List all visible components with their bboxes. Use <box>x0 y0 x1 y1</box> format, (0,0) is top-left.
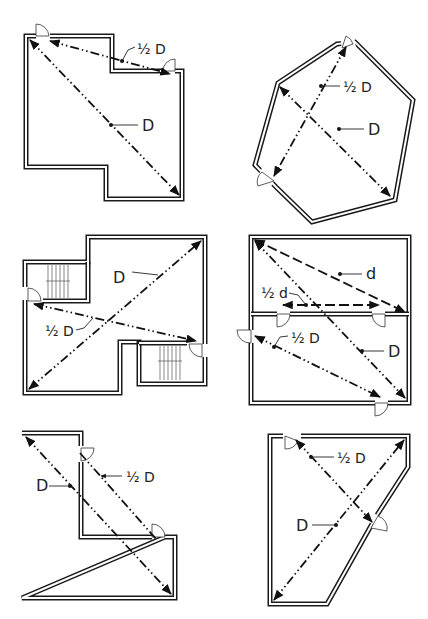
panel-6-label-d: D <box>296 516 308 535</box>
panel-5-label-d: D <box>36 476 48 495</box>
panel-3-stairs-bottom-right <box>158 346 182 380</box>
panel-2-door-top <box>340 36 356 50</box>
panel-1-label-d: D <box>142 116 154 135</box>
panel-3-floor-plan: D ½ D <box>21 237 209 393</box>
panel-2-label-half-d: ½ D <box>343 79 372 95</box>
panel-4-door-left-wall <box>237 330 255 343</box>
panel-2-label-d: D <box>368 120 380 139</box>
panel-4-door-bottom <box>375 399 388 416</box>
panel-4-floor-plan: d ½ d D ½ D <box>237 237 409 416</box>
panel-5-label-half-d: ½ D <box>126 469 155 485</box>
panel-4-label-half-d-lower: ½ d <box>261 285 288 301</box>
panel-1-door-right <box>163 59 175 75</box>
panel-4-diagonal-d-upper <box>255 240 405 312</box>
panel-4-label-d-lower: d <box>366 264 376 283</box>
panel-5-door-lower <box>152 524 165 537</box>
panel-2-diagonal-d <box>280 87 390 196</box>
panel-5-exit-line <box>80 453 157 540</box>
panel-6-door-top <box>285 436 298 449</box>
panel-1-floor-plan: D ½ D <box>26 24 182 199</box>
panel-3-stairs-top-left <box>46 265 70 298</box>
panel-6-floor-plan: ½ D D <box>270 436 408 604</box>
panel-5-floor-plan: D ½ D <box>22 433 175 598</box>
panel-4-label-d: D <box>388 342 400 361</box>
panel-5-diagonal-d <box>26 437 171 594</box>
panel-3-label-half-d: ½ D <box>45 323 74 339</box>
panel-1-door-top-left <box>36 24 50 40</box>
exit-separation-diagram: D ½ D ½ D D <box>0 0 428 619</box>
panel-6-door-right <box>371 516 387 531</box>
panel-1-label-half-d: ½ D <box>137 41 166 57</box>
panel-6-label-half-d: ½ D <box>337 450 366 466</box>
panel-3-door-left <box>21 287 41 301</box>
panel-5-door-upper <box>81 448 94 461</box>
panel-2-exit-line <box>274 47 346 176</box>
panel-2-floor-plan: ½ D D <box>255 36 413 222</box>
panel-4-label-half-d-upper: ½ D <box>291 330 320 346</box>
panel-4-door-partition-left <box>277 310 290 327</box>
panel-4-door-partition-right <box>372 310 385 327</box>
panel-3-label-d: D <box>113 268 125 287</box>
panel-3-door-right <box>189 344 209 357</box>
